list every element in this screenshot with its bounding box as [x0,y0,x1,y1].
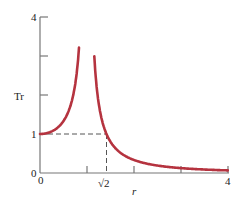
x-tick-label-0: 0 [38,175,44,186]
x-tick-label-sqrt2: √2 [98,178,110,189]
reference-dashed-lines [40,134,107,173]
curve-left-branch [40,48,79,134]
y-tick-label-4: 4 [31,12,37,23]
y-tick-label-1: 1 [31,129,37,140]
y-ticks [40,17,48,134]
y-axis-label: Tr [14,91,24,102]
x-tick-label-4: 4 [225,176,231,187]
curve-right-branch [94,56,228,170]
x-axis-label: r [132,186,136,197]
y-tick-label-0: 0 [31,168,37,179]
